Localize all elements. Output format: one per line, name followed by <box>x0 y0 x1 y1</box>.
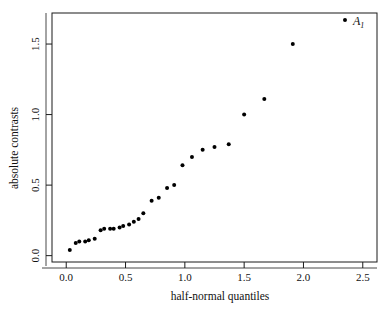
data-point <box>83 240 87 244</box>
data-point <box>137 217 141 221</box>
data-point <box>68 248 72 252</box>
x-axis-ticks: 0.00.51.01.52.02.5 <box>42 262 377 283</box>
data-point <box>227 142 231 146</box>
data-point <box>165 186 169 190</box>
data-point <box>190 155 194 159</box>
y-tick-label: 0.0 <box>29 248 41 262</box>
data-point <box>121 224 125 228</box>
data-point <box>291 42 295 46</box>
x-tick-label: 2.0 <box>297 271 311 283</box>
data-point <box>99 228 103 232</box>
x-tick-label: 1.5 <box>237 271 251 283</box>
data-points <box>68 18 347 252</box>
x-tick-label: 1.0 <box>178 271 192 283</box>
plot-frame <box>52 13 377 262</box>
data-point <box>141 211 145 215</box>
y-tick-label: 1.0 <box>29 107 41 121</box>
x-tick-label: 2.5 <box>356 271 370 283</box>
data-point <box>77 240 81 244</box>
data-point <box>172 183 176 187</box>
y-axis-ticks: 0.00.51.01.5 <box>29 13 52 266</box>
data-point <box>242 113 246 117</box>
x-tick-label: 0.0 <box>59 271 73 283</box>
point-annotations: A1 <box>352 14 364 30</box>
data-point <box>118 225 122 229</box>
data-point <box>87 238 91 242</box>
data-point <box>262 97 266 101</box>
data-point <box>343 18 347 22</box>
data-point <box>132 220 136 224</box>
x-tick-label: 0.5 <box>119 271 133 283</box>
y-axis-label: absolute contrasts <box>8 106 20 189</box>
data-point <box>112 227 116 231</box>
chart-canvas: 0.00.51.01.52.02.5 0.00.51.01.5 A1 half-… <box>0 0 389 310</box>
annotation-label: A1 <box>352 14 364 30</box>
data-point <box>213 145 217 149</box>
data-point <box>150 199 154 203</box>
data-point <box>93 237 97 241</box>
data-point <box>157 196 161 200</box>
data-point <box>180 163 184 167</box>
data-point <box>102 227 106 231</box>
data-point <box>201 148 205 152</box>
y-tick-label: 0.5 <box>29 178 41 192</box>
data-point <box>127 223 131 227</box>
data-point <box>108 227 112 231</box>
half-normal-plot-figure: 0.00.51.01.52.02.5 0.00.51.01.5 A1 half-… <box>0 0 389 310</box>
x-axis-label: half-normal quantiles <box>171 290 270 303</box>
data-point <box>74 241 78 245</box>
y-tick-label: 1.5 <box>29 37 41 51</box>
